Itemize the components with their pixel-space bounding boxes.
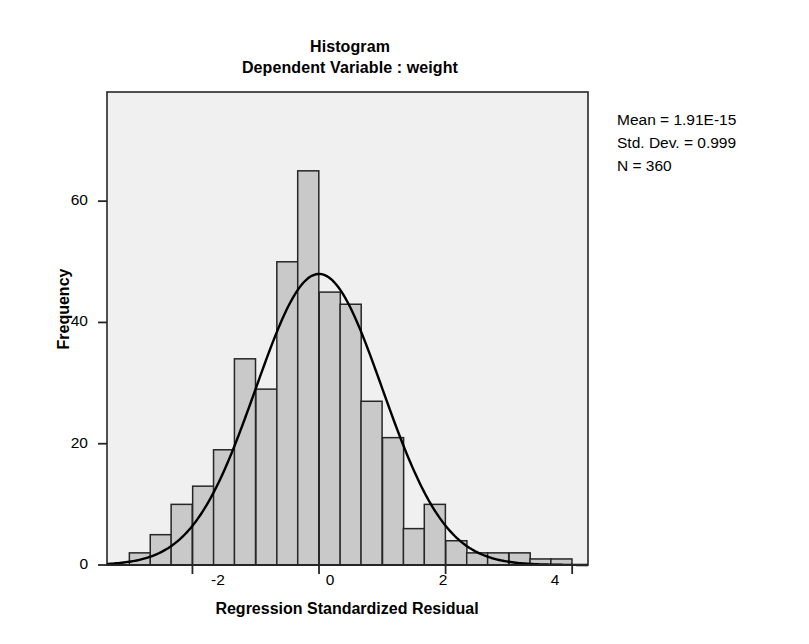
histogram-bar: [319, 292, 340, 565]
plot-area: [0, 0, 809, 644]
histogram-bar: [171, 504, 192, 565]
histogram-bar: [150, 535, 171, 565]
histogram-bar: [424, 504, 445, 565]
histogram-figure: Histogram Dependent Variable : weight Me…: [0, 0, 809, 644]
histogram-bar: [383, 438, 404, 565]
histogram-bar: [403, 529, 424, 565]
histogram-bar: [234, 359, 255, 565]
histogram-bar: [340, 304, 361, 565]
histogram-bar: [256, 389, 277, 565]
histogram-bar: [361, 401, 382, 565]
histogram-bar: [298, 171, 319, 565]
histogram-bar: [214, 450, 235, 565]
